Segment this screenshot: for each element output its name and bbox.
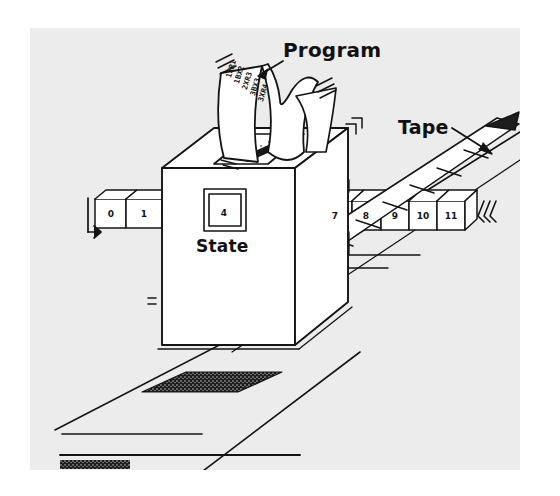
tape-cell-label: 11 [443, 211, 459, 221]
turing-machine-figure: Program Tape State 4 0 1 7 8 9 10 11 1XR… [0, 0, 560, 496]
state-label: State [196, 236, 249, 256]
state-value-readout: 4 [217, 208, 231, 218]
tape-cell-label: 9 [387, 211, 403, 221]
tape-label: Tape [398, 116, 449, 138]
tape-right-motion-lines [478, 201, 496, 222]
turing-machine-illustration [0, 0, 560, 496]
tape-cell-label: 0 [103, 209, 119, 219]
scan-artifact-block [60, 460, 130, 469]
tape-cell-label: 8 [358, 211, 374, 221]
tape-cell-label: 1 [136, 209, 152, 219]
tape-cell-label: 10 [414, 211, 432, 221]
program-label: Program [283, 38, 381, 62]
tape-cell-label: 7 [327, 211, 343, 221]
